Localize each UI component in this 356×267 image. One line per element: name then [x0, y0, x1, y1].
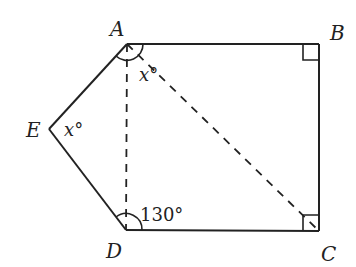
vertex-label-c: C — [321, 242, 336, 266]
right-angle-marker-b — [303, 44, 319, 60]
angle-label-a: x° — [139, 64, 158, 85]
angle-label-e: x° — [64, 119, 83, 140]
vertex-label-d: D — [105, 239, 122, 263]
vertex-label-a: A — [108, 17, 124, 41]
vertex-label-e: E — [25, 118, 41, 142]
geometry-diagram: A B C D E x° x° 130° — [0, 0, 356, 267]
dashed-segment-ad — [126, 44, 127, 230]
edge-cd — [126, 230, 319, 231]
edge-de — [49, 129, 126, 230]
angle-label-d: 130° — [140, 204, 183, 225]
edge-ea — [49, 44, 127, 129]
vertex-label-b: B — [329, 21, 345, 45]
